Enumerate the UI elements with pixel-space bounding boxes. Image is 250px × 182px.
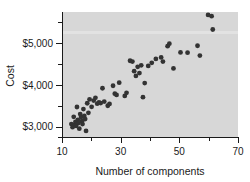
- x-tick-label: 10: [56, 146, 68, 157]
- data-point: [159, 55, 164, 60]
- data-point: [142, 81, 147, 86]
- data-point: [137, 71, 142, 76]
- data-point: [197, 53, 202, 58]
- x-axis-title: Number of components: [95, 165, 204, 177]
- y-tick-label: $5,000: [22, 38, 53, 49]
- data-point: [132, 69, 137, 74]
- data-point: [161, 59, 166, 64]
- data-point: [209, 14, 214, 19]
- data-point: [71, 114, 76, 119]
- data-point: [117, 80, 122, 85]
- data-point: [114, 93, 119, 98]
- data-point: [80, 122, 85, 127]
- data-point: [171, 66, 176, 71]
- x-tick-label: 50: [174, 146, 186, 157]
- scatter-plot-figure: $3,000$4,000$5,000 10305070 Number of co…: [0, 0, 250, 182]
- data-point: [107, 101, 112, 106]
- data-point: [89, 104, 94, 109]
- data-point: [130, 59, 135, 64]
- data-point: [139, 63, 144, 68]
- data-point: [141, 95, 146, 100]
- data-point: [195, 43, 200, 48]
- x-tick-label: 70: [232, 146, 244, 157]
- chart-canvas: $3,000$4,000$5,000 10305070 Number of co…: [0, 0, 250, 182]
- x-axis-tick-labels: 10305070: [56, 146, 244, 157]
- data-point: [210, 27, 215, 32]
- y-axis-ticks: [56, 23, 62, 138]
- data-point: [102, 99, 107, 104]
- data-point: [178, 50, 183, 55]
- data-point: [84, 129, 89, 134]
- y-axis-tick-labels: $3,000$4,000$5,000: [22, 38, 53, 132]
- x-tick-label: 30: [115, 146, 127, 157]
- data-point: [87, 97, 92, 102]
- data-point: [153, 56, 158, 61]
- data-point: [185, 50, 190, 55]
- y-axis-title: Cost: [4, 65, 16, 87]
- data-point: [86, 110, 91, 115]
- data-point: [124, 90, 129, 95]
- data-point: [83, 117, 88, 122]
- data-point: [93, 95, 98, 100]
- data-point: [75, 105, 80, 110]
- data-point: [149, 60, 154, 65]
- data-point: [111, 83, 116, 88]
- data-point: [100, 86, 105, 91]
- y-tick-label: $4,000: [22, 80, 53, 91]
- data-point: [167, 41, 172, 46]
- y-tick-label: $3,000: [22, 121, 53, 132]
- data-point: [81, 107, 86, 112]
- data-point: [77, 126, 82, 131]
